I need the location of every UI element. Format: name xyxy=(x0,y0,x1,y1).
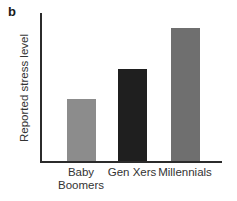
panel-label: b xyxy=(8,4,16,19)
bar-chart-figure: b Reported stress level Baby BoomersGen … xyxy=(0,0,237,201)
bar-millennials xyxy=(171,28,200,161)
bar-gen-xers xyxy=(118,69,147,161)
bar-baby-boomers xyxy=(67,99,96,161)
plot-area xyxy=(40,13,222,163)
y-axis-label: Reported stress level xyxy=(18,13,30,163)
x-tick-label: Millennials xyxy=(152,166,218,179)
